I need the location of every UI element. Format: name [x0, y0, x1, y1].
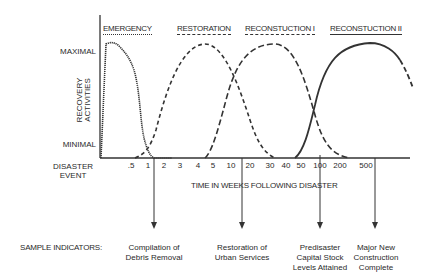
indicator-line: Complete: [354, 263, 399, 273]
x-tick: 4: [196, 161, 200, 170]
phase-label-emergency: EMERGENCY: [103, 24, 152, 33]
x-tick: 20: [246, 161, 255, 170]
x-tick: 2: [162, 161, 166, 170]
indicator-line: Restoration of: [215, 243, 270, 253]
x-tick: 5: [211, 161, 215, 170]
y-max-label: MAXIMAL: [58, 47, 96, 56]
sample-indicators-title: SAMPLE INDICATORS:: [20, 243, 102, 252]
x-tick: 10: [227, 161, 236, 170]
x-tick: 50: [297, 161, 306, 170]
indicator-arrow-2: [239, 158, 245, 229]
x-tick: .5: [128, 161, 135, 170]
phase-label-reconstruction-1: RECONSTUCTION I: [245, 24, 315, 33]
y-axis-title: RECOVERY ACTIVITIES: [76, 78, 92, 123]
emergency-curve: [101, 43, 172, 158]
x-tick: 100: [313, 161, 326, 170]
indicator-line: Compilation of: [126, 243, 183, 253]
reconstruction-2-curve-tail: [400, 60, 413, 88]
phase-label-text: EMERGENCY: [103, 24, 152, 35]
indicator-urban-services: Restoration of Urban Services: [215, 243, 270, 263]
y-axis-title-line2: ACTIVITIES: [84, 78, 92, 123]
phase-label-reconstruction-2: RECONSTUCTION II: [330, 24, 402, 33]
phase-label-text: RESTORATION: [177, 24, 231, 35]
indicator-line: Levels Attained: [293, 263, 347, 273]
disaster-event-label: DISASTER EVENT: [50, 162, 96, 180]
indicator-arrow-4: [372, 158, 378, 229]
x-tick: 3: [178, 161, 182, 170]
indicator-line: Major New: [354, 243, 399, 253]
indicator-capital-stock: Predisaster Capital Stock Levels Attaine…: [293, 243, 347, 273]
indicator-line: Urban Services: [215, 253, 270, 263]
indicator-debris-removal: Compilation of Debris Removal: [126, 243, 183, 263]
phase-label-text: RECONSTUCTION II: [330, 24, 402, 35]
phase-label-text: RECONSTUCTION I: [245, 24, 315, 35]
indicator-new-construction: Major New Construction Complete: [354, 243, 399, 273]
x-tick: 30: [266, 161, 275, 170]
indicator-arrow-1: [151, 158, 157, 229]
restoration-curve: [135, 44, 275, 158]
indicator-line: Construction: [354, 253, 399, 263]
x-tick: 500: [359, 161, 372, 170]
indicator-line: Capital Stock: [293, 253, 347, 263]
reconstruction-2-curve: [295, 43, 400, 158]
disaster-label-line2: EVENT: [50, 171, 96, 180]
x-tick: 40: [282, 161, 291, 170]
x-tick: 200: [333, 161, 346, 170]
y-min-label: MINIMAL: [58, 140, 96, 149]
indicator-line: Debris Removal: [126, 253, 183, 263]
x-axis-title: TIME IN WEEKS FOLLOWING DISASTER: [191, 181, 338, 190]
phase-label-restoration: RESTORATION: [177, 24, 231, 33]
x-tick: 1: [146, 161, 150, 170]
disaster-label-line1: DISASTER: [50, 162, 96, 171]
indicator-line: Predisaster: [293, 243, 347, 253]
